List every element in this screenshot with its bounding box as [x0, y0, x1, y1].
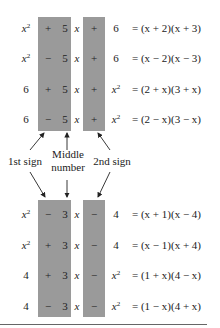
middle-variable: x	[72, 269, 82, 281]
factored-form: = (1 + x)(4 − x)	[132, 269, 201, 281]
term3: 6	[113, 22, 119, 34]
factored-form: = (x + 1)(x − 4)	[132, 208, 201, 220]
term3: 6	[113, 52, 119, 64]
bottom-rule	[0, 324, 207, 325]
term3-exponent: 2	[117, 83, 121, 91]
first-sign-arrow-down	[30, 172, 45, 197]
term3-exponent: 2	[117, 300, 121, 308]
middle-variable: x	[72, 300, 82, 312]
factored-form: = (x + 2)(x + 3)	[132, 22, 201, 34]
factored-form: = (x − 2)(x − 3)	[132, 52, 201, 64]
first-sign: −	[42, 52, 54, 64]
term1: 6	[23, 113, 29, 125]
factored-form: = (x − 1)(x + 4)	[132, 239, 201, 251]
middle-variable: x	[72, 208, 82, 220]
middle-number-label-line1: Middle	[48, 148, 88, 160]
term3-exponent: 2	[117, 113, 121, 121]
term3: 4	[113, 208, 119, 220]
second-sign-arrow-down	[98, 172, 110, 197]
second-sign-label: 2nd sign	[89, 155, 135, 167]
middle-variable: x	[72, 52, 82, 64]
term3: 4	[113, 239, 119, 251]
second-sign-arrow-up	[98, 133, 110, 150]
factored-form: = (1 − x)(4 + x)	[132, 300, 201, 312]
middle-number: 3	[60, 239, 70, 251]
first-sign-label: 1st sign	[4, 155, 46, 167]
first-sign-arrow-up	[30, 133, 44, 150]
middle-number: 5	[60, 113, 70, 125]
middle-number: 3	[60, 208, 70, 220]
middle-number: 3	[60, 300, 70, 312]
second-sign: −	[88, 239, 100, 251]
first-sign: +	[42, 83, 54, 95]
middle-variable: x	[72, 239, 82, 251]
first-sign: +	[42, 269, 54, 281]
second-sign: −	[88, 208, 100, 220]
second-sign: +	[88, 83, 100, 95]
second-sign: +	[88, 22, 100, 34]
second-sign: −	[88, 269, 100, 281]
middle-variable: x	[72, 83, 82, 95]
first-sign: +	[42, 22, 54, 34]
middle-number: 3	[60, 269, 70, 281]
term3-exponent: 2	[117, 269, 121, 277]
first-sign: −	[42, 113, 54, 125]
term1-exponent: 2	[27, 239, 31, 247]
first-sign: −	[42, 208, 54, 220]
factored-form: = (2 − x)(3 − x)	[132, 113, 201, 125]
middle-variable: x	[72, 22, 82, 34]
second-sign: +	[88, 113, 100, 125]
middle-number: 5	[60, 52, 70, 64]
term1: 4	[23, 269, 29, 281]
middle-number-label-line2: number	[46, 161, 90, 173]
term1-exponent: 2	[27, 22, 31, 30]
middle-variable: x	[72, 113, 82, 125]
term1-exponent: 2	[27, 208, 31, 216]
term1-exponent: 2	[27, 52, 31, 60]
middle-number: 5	[60, 22, 70, 34]
first-sign: −	[42, 300, 54, 312]
factored-form: = (2 + x)(3 + x)	[132, 83, 201, 95]
first-sign: +	[42, 239, 54, 251]
term1: 6	[23, 83, 29, 95]
term1: 4	[23, 300, 29, 312]
second-sign: −	[88, 300, 100, 312]
middle-number: 5	[60, 83, 70, 95]
second-sign: +	[88, 52, 100, 64]
